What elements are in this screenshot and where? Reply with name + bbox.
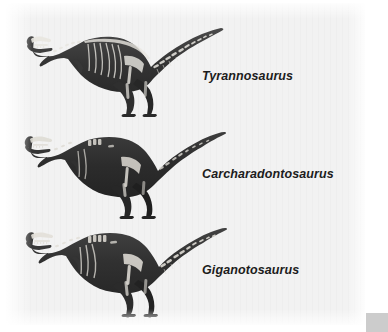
- specimen-row: Giganotosaurus: [6, 209, 365, 321]
- specimen-label-carcharadontosaurus: Carcharadontosaurus: [202, 167, 334, 181]
- specimen-row: Carcharadontosaurus: [6, 115, 365, 219]
- scan-page: Tyrannosaurus: [0, 0, 388, 332]
- corner-registration-swatch: [366, 313, 388, 332]
- specimen-label-tyrannosaurus: Tyrannosaurus: [202, 69, 293, 83]
- dinosaur-silhouette-tyrannosaurus: [20, 11, 235, 121]
- figure-plate: Tyrannosaurus: [6, 3, 365, 325]
- specimen-label-giganotosaurus: Giganotosaurus: [202, 263, 299, 277]
- specimen-row: Tyrannosaurus: [6, 11, 365, 121]
- body-silhouette: [26, 228, 227, 318]
